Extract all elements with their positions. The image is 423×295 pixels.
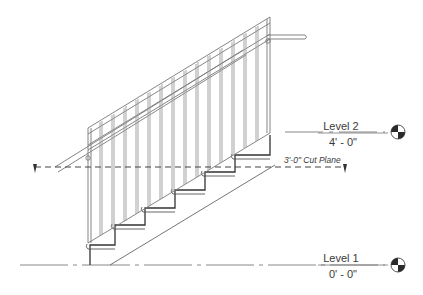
stair-section-drawing: 3'-0" Cut Plane Level 2 4' - 0" Level 1 …: [0, 0, 423, 295]
cut-plane-label: 3'-0" Cut Plane: [284, 155, 341, 165]
cut-plane[interactable]: 3'-0" Cut Plane: [33, 155, 347, 173]
level-1-datum-marker-icon: [391, 258, 405, 272]
level-2-elevation: 4' - 0": [329, 136, 357, 148]
level-1-elevation: 0' - 0": [329, 268, 357, 280]
level-1-tag[interactable]: Level 1 0' - 0": [318, 252, 405, 280]
cut-plane-left-end-icon: [33, 164, 37, 173]
cut-plane-right-end-icon: [343, 164, 347, 173]
level-2-tag[interactable]: Level 2 4' - 0": [318, 120, 405, 148]
level-2-datum-marker-icon: [391, 125, 405, 139]
level-2-name: Level 2: [323, 120, 358, 132]
railing[interactable]: [55, 17, 307, 243]
level-1-name: Level 1: [323, 252, 358, 264]
